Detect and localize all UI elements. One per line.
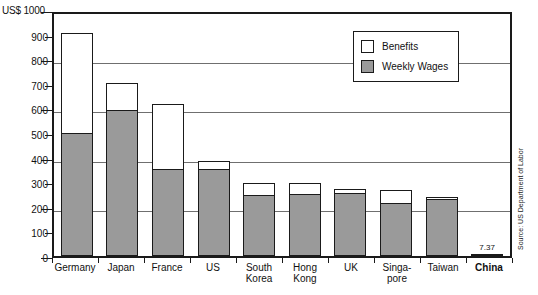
x-axis-label-germany: Germany	[52, 262, 98, 284]
bar-hongkong	[289, 183, 321, 256]
bar-slot	[282, 14, 328, 256]
source-note: Source: US Department of Labor	[517, 148, 524, 250]
bar-segment-benefits	[198, 161, 230, 169]
bar-slot	[145, 14, 191, 256]
bar-segment-benefits	[243, 183, 275, 195]
bar-slot	[191, 14, 237, 256]
x-axis-label-japan: Japan	[98, 262, 144, 284]
x-axis-label-uk: UK	[328, 262, 374, 284]
bar-segment-benefits	[152, 104, 184, 169]
y-axis-tick-mark	[41, 110, 52, 111]
y-axis-tick-mark	[45, 37, 52, 38]
bar-slot: 7.37	[464, 14, 510, 256]
x-axis-label-china: China	[466, 262, 512, 284]
bar-segment-weekly-wages	[243, 195, 275, 257]
x-axis-label-hongkong: Hong Kong	[282, 262, 328, 284]
bar-segment-weekly-wages	[426, 199, 458, 256]
bar-segment-weekly-wages	[471, 254, 503, 256]
bar-segment-benefits	[380, 190, 412, 203]
bar-segment-benefits	[61, 33, 93, 133]
legend-item-benefits: Benefits	[361, 40, 451, 53]
legend-label-weekly-wages: Weekly Wages	[382, 61, 448, 72]
x-axis-category-labels: GermanyJapanFranceUSSouth KoreaHong Kong…	[52, 262, 512, 284]
bar-segment-weekly-wages	[380, 203, 412, 256]
legend-swatch-weekly-wages-icon	[361, 60, 374, 73]
bar-segment-weekly-wages	[152, 169, 184, 256]
bar-segment-benefits	[289, 183, 321, 194]
bar-segment-benefits	[106, 83, 138, 111]
x-axis-label-us: US	[190, 262, 236, 284]
bar-japan	[106, 83, 138, 256]
x-axis-label-singapore: Singa- pore	[374, 262, 420, 284]
y-axis-tick-mark	[41, 258, 52, 259]
x-axis-label-taiwan: Taiwan	[420, 262, 466, 284]
bar-segment-weekly-wages	[198, 169, 230, 256]
bar-chart: US$ 1000 0100200300400500600700800900 7.…	[0, 0, 538, 295]
x-axis-label-southkorea: South Korea	[236, 262, 282, 284]
y-axis-tick-mark	[41, 12, 52, 13]
legend-label-benefits: Benefits	[382, 41, 418, 52]
y-axis-tick-mark	[45, 86, 52, 87]
bar-france	[152, 104, 184, 256]
bar-segment-weekly-wages	[334, 193, 366, 256]
bar-slot	[236, 14, 282, 256]
y-axis-tick-mark	[45, 184, 52, 185]
bar-uk	[334, 189, 366, 256]
bar-us	[198, 161, 230, 256]
y-axis-tick-mark	[41, 209, 52, 210]
bar-segment-weekly-wages	[289, 194, 321, 256]
y-axis-tick-mark	[45, 233, 52, 234]
y-axis-tick-mark	[41, 160, 52, 161]
y-axis-tick-mark	[45, 135, 52, 136]
y-axis-tick-marks	[40, 12, 52, 258]
bar-singapore	[380, 190, 412, 256]
bar-southkorea	[243, 183, 275, 256]
y-axis-tick-mark	[41, 61, 52, 62]
bar-slot	[54, 14, 100, 256]
legend-swatch-benefits-icon	[361, 40, 374, 53]
bar-slot	[100, 14, 146, 256]
bar-segment-weekly-wages	[106, 110, 138, 256]
bar-segment-weekly-wages	[61, 133, 93, 256]
bar-taiwan	[426, 197, 458, 256]
legend-item-weekly-wages: Weekly Wages	[361, 60, 451, 73]
bar-value-label: 7.37	[471, 243, 503, 252]
chart-legend: Benefits Weekly Wages	[353, 31, 459, 82]
bar-china: 7.37	[471, 254, 503, 256]
x-axis-label-france: France	[144, 262, 190, 284]
bar-germany	[61, 33, 93, 256]
